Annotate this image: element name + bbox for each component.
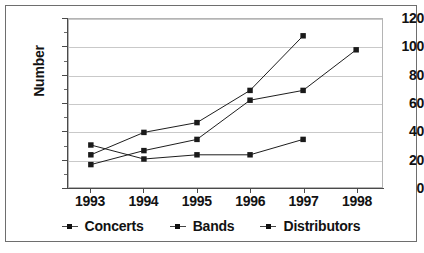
x-axis-label: 1995 [167,193,227,209]
data-point-marker [247,97,252,102]
series-line [91,50,356,165]
y-axis-tick [62,75,67,76]
y-axis-tick [62,188,67,189]
y-axis-tick [62,18,67,19]
legend-item-concerts[interactable]: Concerts [62,218,144,234]
chart-figure: Number 020406080100120 19931994199519961… [0,0,424,253]
data-point-marker [353,47,358,52]
plot-area [68,18,383,188]
data-point-marker [194,137,199,142]
data-point-marker [88,152,93,157]
y-axis-minor-tick [64,89,67,90]
legend-marker-icon [62,223,78,229]
y-axis-tick [62,103,67,104]
data-point-marker [141,148,146,153]
data-point-marker [247,152,252,157]
x-axis-label: 1996 [220,193,280,209]
y-axis-minor-tick [64,146,67,147]
x-axis-line [68,188,384,189]
data-point-marker [88,162,93,167]
data-point-marker [141,130,146,135]
data-point-marker [300,137,305,142]
legend-label: Bands [193,218,235,234]
legend-marker-icon [170,223,186,229]
data-point-marker [88,142,93,147]
data-point-marker [141,156,146,161]
data-point-marker [300,33,305,38]
legend-label: Distributors [283,218,360,234]
x-axis-label: 1997 [274,193,334,209]
data-point-marker [194,120,199,125]
legend-item-distributors[interactable]: Distributors [260,218,360,234]
y-axis-minor-tick [64,174,67,175]
legend-label: Concerts [85,218,144,234]
series-lines-layer [69,19,382,187]
y-axis-title: Number [31,26,47,116]
legend-item-bands[interactable]: Bands [170,218,235,234]
y-axis-tick [62,160,67,161]
data-point-marker [247,88,252,93]
chart-legend: ConcertsBandsDistributors [5,218,417,234]
y-axis-minor-tick [64,32,67,33]
y-axis-minor-tick [64,117,67,118]
x-axis-label: 1993 [60,193,120,209]
x-axis-label: 1994 [113,193,173,209]
legend-marker-icon [260,223,276,229]
x-axis-label: 1998 [327,193,387,209]
y-axis-tick [62,131,67,132]
y-axis-tick [62,46,67,47]
data-point-marker [194,152,199,157]
data-point-marker [300,88,305,93]
y-axis-minor-tick [64,61,67,62]
